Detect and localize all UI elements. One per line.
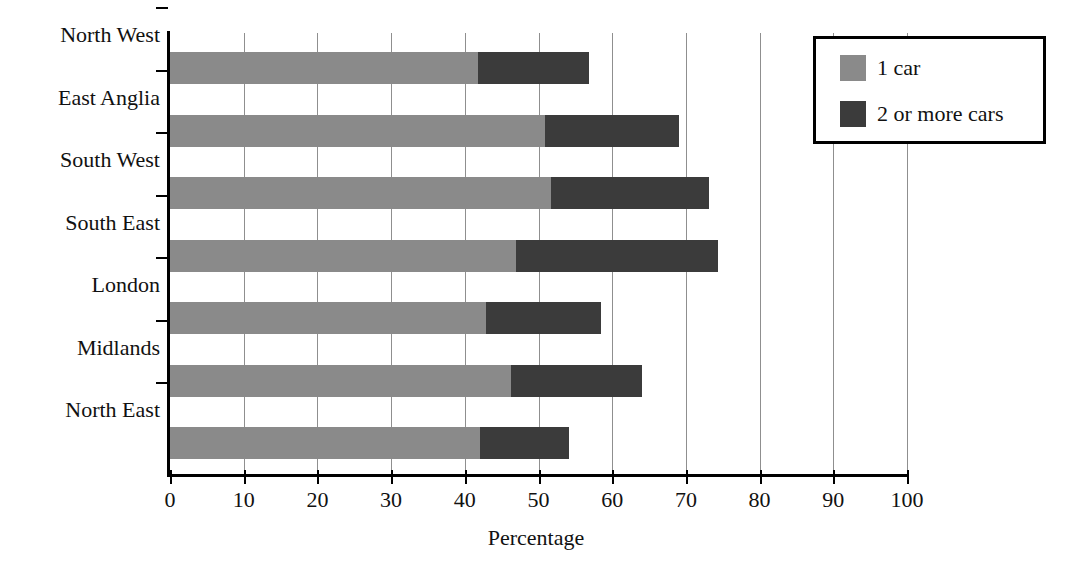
x-axis-tick <box>907 470 909 484</box>
bar-row <box>170 52 907 84</box>
bar-segment <box>170 365 511 397</box>
legend-item-two-or-more-cars: 2 or more cars <box>840 101 1003 127</box>
x-axis-tick <box>760 470 762 484</box>
legend-item-one-car: 1 car <box>840 55 920 81</box>
legend-swatch-two-or-more-cars <box>840 101 866 127</box>
y-axis-category-label: London <box>0 272 160 298</box>
stacked-bar-chart: North WestEast AngliaSouth WestSouth Eas… <box>0 0 1080 587</box>
x-axis-tick-label: 80 <box>749 487 771 513</box>
x-axis-tick-label: 0 <box>165 487 176 513</box>
y-axis-category-label: North East <box>0 397 160 423</box>
x-axis-tick <box>170 470 172 484</box>
x-axis-tick <box>244 470 246 484</box>
bar-row <box>170 427 907 459</box>
x-axis-tick <box>833 470 835 484</box>
bar-segment <box>545 115 679 147</box>
bar-row <box>170 365 907 397</box>
bar-segment <box>170 302 486 334</box>
bar-segment <box>551 177 709 209</box>
y-axis-category-label: Midlands <box>0 335 160 361</box>
x-axis-tick <box>612 470 614 484</box>
x-axis-tick-label: 20 <box>306 487 328 513</box>
bar-segment <box>516 240 719 272</box>
y-axis-category-label: North West <box>0 22 160 48</box>
x-axis-title: Percentage <box>0 525 1080 551</box>
y-axis-category-label: South East <box>0 210 160 236</box>
bar-segment <box>170 177 551 209</box>
x-axis-tick-label: 70 <box>675 487 697 513</box>
x-axis-tick <box>465 470 467 484</box>
bar-segment <box>170 427 480 459</box>
plot-area <box>170 33 907 475</box>
x-axis-tick <box>317 470 319 484</box>
bar-segment <box>480 427 568 459</box>
bar-row <box>170 177 907 209</box>
x-axis-tick <box>539 470 541 484</box>
legend: 1 car 2 or more cars <box>813 36 1046 144</box>
x-axis-tick-label: 40 <box>454 487 476 513</box>
bar-row <box>170 115 907 147</box>
x-axis-tick-label: 50 <box>528 487 550 513</box>
bar-row <box>170 302 907 334</box>
bar-segment <box>478 52 589 84</box>
bar-segment <box>170 52 478 84</box>
x-axis-tick-label: 100 <box>891 487 924 513</box>
x-axis-title-text: Percentage <box>488 525 585 551</box>
x-axis-tick-label: 60 <box>601 487 623 513</box>
bar-segment <box>511 365 641 397</box>
bar-segment <box>170 240 516 272</box>
legend-label-one-car: 1 car <box>877 55 920 81</box>
bar-segment <box>170 115 545 147</box>
x-axis-tick-label: 90 <box>822 487 844 513</box>
y-axis-category-label: East Anglia <box>0 85 160 111</box>
y-axis-category-label: South West <box>0 147 160 173</box>
y-axis-category-labels: North WestEast AngliaSouth WestSouth Eas… <box>0 0 160 500</box>
bar-row <box>170 240 907 272</box>
legend-label-two-or-more-cars: 2 or more cars <box>877 101 1003 127</box>
y-axis-line <box>167 31 170 477</box>
x-axis-tick <box>391 470 393 484</box>
legend-swatch-one-car <box>840 55 866 81</box>
bar-segment <box>486 302 601 334</box>
x-axis-tick <box>686 470 688 484</box>
x-axis-tick-label: 30 <box>380 487 402 513</box>
x-axis-tick-label: 10 <box>233 487 255 513</box>
